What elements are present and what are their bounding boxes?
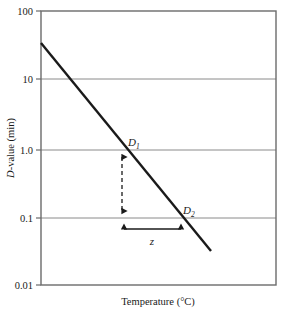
svg-text:D-value (min): D-value (min) — [5, 118, 17, 179]
plot-area-background — [41, 11, 276, 285]
y-tick-label-10: 10 — [23, 74, 34, 85]
y-tick-label-0-01: 0.01 — [15, 280, 33, 291]
y-axis-title-rest: -value (min) — [5, 118, 17, 171]
chart-figure: 100 10 1.0 0.1 0.01 D 1 D 2 z D-value (m… — [0, 0, 287, 318]
annotation-d2-letter: D — [182, 204, 191, 216]
annotation-d1-letter: D — [127, 136, 136, 148]
annotation-d1-subscript: 1 — [136, 142, 140, 151]
y-tick-label-100: 100 — [17, 6, 33, 17]
y-tick-label-0-1: 0.1 — [20, 213, 33, 224]
annotation-d2-subscript: 2 — [191, 210, 195, 219]
y-axis-title: D-value (min) — [5, 118, 17, 179]
thermal-death-time-chart: 100 10 1.0 0.1 0.01 D 1 D 2 z D-value (m… — [0, 0, 287, 318]
y-tick-label-1: 1.0 — [20, 145, 33, 156]
annotation-z-letter: z — [149, 235, 155, 247]
y-axis-ticks — [36, 11, 41, 285]
x-axis-title: Temperature (°C) — [121, 296, 195, 308]
